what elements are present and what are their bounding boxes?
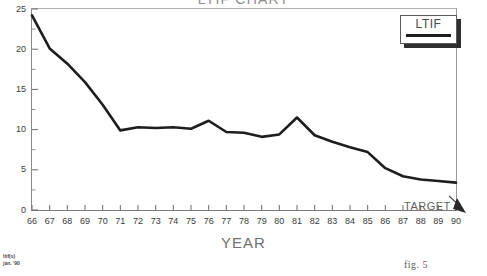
- x-axis-ticks: [32, 205, 456, 210]
- y-axis-tick-label: 5: [2, 165, 26, 174]
- footnote: ltif(s) jan. '90: [3, 253, 20, 266]
- y-axis-minor-ticks: [32, 29, 36, 190]
- legend-entry-label: LTIF: [400, 17, 457, 31]
- target-annotation-label: TARGET: [404, 200, 451, 212]
- y-axis-tick-label: 0: [2, 206, 26, 215]
- data-series-ltif: [32, 15, 456, 182]
- x-axis-tick-label: 90: [445, 217, 467, 226]
- y-axis-tick-label: 25: [2, 5, 26, 14]
- figure-ltif-chart: LTIF CHART 0510152025 666768697071727374…: [0, 0, 487, 276]
- y-axis-tick-label: 20: [2, 45, 26, 54]
- figure-caption: fig. 5: [404, 259, 428, 270]
- y-axis-tick-label: 10: [2, 125, 26, 134]
- target-arrow-icon: [449, 196, 466, 213]
- legend: LTIF: [400, 15, 461, 48]
- legend-line-swatch: [406, 34, 451, 37]
- y-axis-tick-label: 15: [2, 85, 26, 94]
- x-axis-title: YEAR: [0, 234, 487, 251]
- footnote-line-2: jan. '90: [3, 260, 20, 267]
